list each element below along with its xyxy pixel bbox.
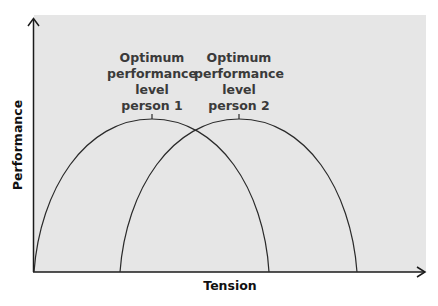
label-line: performance [194, 66, 284, 81]
y-axis-label: Performance [10, 100, 25, 190]
label-line: performance [107, 66, 197, 81]
label-line: level [222, 82, 256, 97]
label-line: Optimum [120, 50, 185, 65]
performance-tension-diagram: Optimum performance level person 1 Optim… [0, 0, 438, 306]
x-axis-label: Tension [203, 278, 256, 293]
label-line: Optimum [207, 50, 272, 65]
label-line: person 1 [121, 98, 183, 113]
label-line: level [135, 82, 169, 97]
label-line: person 2 [208, 98, 270, 113]
